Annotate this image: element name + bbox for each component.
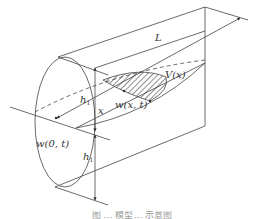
bottom-edge: [55, 126, 205, 187]
cylinder-deflection-diagram: L V(x) w(x, t) x h1 w(0, t) h1 图 … 模型… 示…: [0, 0, 264, 219]
figure-caption: 图 … 模型… 示意图: [0, 211, 264, 219]
label-w0t: w(0, t): [36, 139, 69, 149]
hatched-region: [103, 72, 167, 101]
label-velocity: V(x): [165, 70, 186, 80]
label-x: x: [98, 106, 104, 116]
label-h1-upper: h1: [80, 95, 90, 106]
label-deflection: w(x, t): [115, 100, 147, 110]
front-ellipse: [35, 57, 95, 187]
label-length: L: [155, 33, 162, 43]
label-h1-lower: h1: [83, 152, 93, 163]
